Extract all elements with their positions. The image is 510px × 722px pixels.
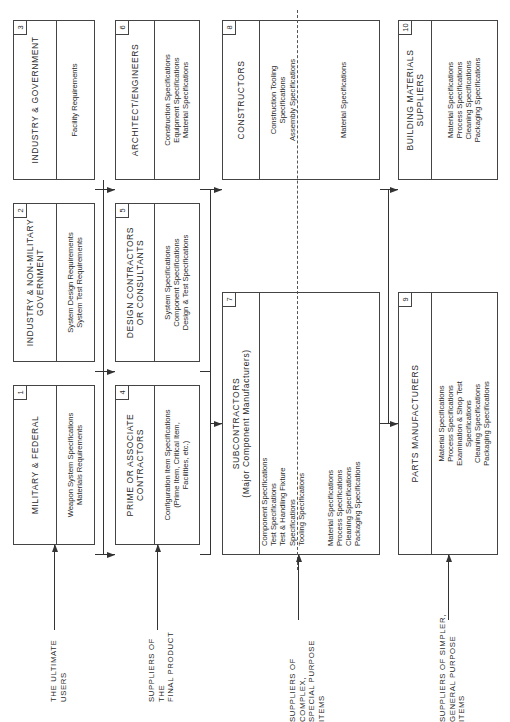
box-title: ARCHITECT/ENGINEERS xyxy=(116,21,155,179)
box-number: 8 xyxy=(223,21,236,35)
box-items: Weapon System Specifications Materials R… xyxy=(56,386,94,544)
leader-line xyxy=(298,555,299,620)
arrow-icon xyxy=(107,552,115,558)
box-design-contractors: DESIGN CONTRACTORS OR CONSULTANTS 5 Syst… xyxy=(115,203,200,362)
box-building-materials-suppliers: BUILDING MATERIALS SUPPLIERS 10 Material… xyxy=(398,20,498,180)
box-architect-engineers: ARCHITECT/ENGINEERS 6 Construction Speci… xyxy=(115,20,200,180)
arrow-icon xyxy=(296,554,302,562)
row-label-ultimate-users: THE ULTIMATE USERS xyxy=(49,622,68,702)
box-number: 5 xyxy=(116,204,129,218)
box-industry-nonmilitary-government: INDUSTRY & NON-MILITARY GOVERNMENT 2 Sys… xyxy=(13,203,95,362)
box-items: Material Specifications Process Specific… xyxy=(431,21,497,179)
box-items-upper: Construction Tooling Specifications Asse… xyxy=(259,21,307,179)
box-number: 7 xyxy=(223,293,236,307)
box-title: PARTS MANUFACTURERS xyxy=(399,293,432,554)
box-title: MILITARY & FEDERAL xyxy=(14,386,57,544)
connector xyxy=(388,189,389,424)
box-title: DESIGN CONTRACTORS OR CONSULTANTS xyxy=(116,204,155,361)
box-number: 10 xyxy=(399,21,412,35)
box-number: 9 xyxy=(399,293,412,307)
box-items: Construction Specifications Equipment Sp… xyxy=(154,21,199,179)
row-label-final-product: SUPPLIERS OF THE FINAL PRODUCT xyxy=(147,622,176,702)
connector xyxy=(210,190,211,555)
arrow-icon xyxy=(155,544,161,552)
arrow-icon xyxy=(214,421,222,427)
leader-line xyxy=(157,545,158,630)
box-military-federal: MILITARY & FEDERAL 1 Weapon System Speci… xyxy=(13,385,95,545)
box-items: Facility Requirements xyxy=(56,21,94,179)
box-items-lower: Material Specifications xyxy=(309,21,379,179)
box-items: Configuration Item Specifications (Prime… xyxy=(154,386,199,544)
box-items-lower: Material Specifications Process Specific… xyxy=(309,293,379,554)
box-subcontractors: SUBCONTRACTORS (Major Component Manufact… xyxy=(222,292,380,555)
arrow-icon xyxy=(214,187,222,193)
arrow-icon xyxy=(390,421,398,427)
box-parts-manufacturers: PARTS MANUFACTURERS 9 Material Specifica… xyxy=(398,292,498,555)
box-number: 4 xyxy=(116,386,129,400)
box-constructors: CONSTRUCTORS 8 Construction Tooling Spec… xyxy=(222,20,380,180)
box-title: BUILDING MATERIALS SUPPLIERS xyxy=(399,21,432,179)
connector xyxy=(200,554,211,555)
row-label-simpler-items: SUPPLIERS OF SIMPLER, GENERAL PURPOSE IT… xyxy=(438,612,467,722)
box-industry-government: INDUSTRY & GOVERNMENT 3 Facility Require… xyxy=(13,20,95,180)
leader-line xyxy=(54,545,55,630)
arrow-icon xyxy=(107,369,115,375)
arrow-icon xyxy=(107,187,115,193)
box-title: PRIME OR ASSOCIATE CONTRACTORS xyxy=(116,386,155,544)
row-label-complex-items: SUPPLIERS OF COMPLEX, SPECIAL PURPOSE IT… xyxy=(288,612,327,722)
box-title: CONSTRUCTORS xyxy=(223,21,260,179)
arrow-icon xyxy=(52,544,58,552)
box-prime-associate-contractors: PRIME OR ASSOCIATE CONTRACTORS 4 Configu… xyxy=(115,385,200,545)
connector xyxy=(200,371,211,372)
box-items: System Specifications Component Specific… xyxy=(154,204,199,361)
box-number: 6 xyxy=(116,21,129,35)
leader-line xyxy=(448,555,449,620)
box-title: INDUSTRY & GOVERNMENT xyxy=(14,21,57,179)
box-number: 3 xyxy=(14,21,27,35)
box-items-upper: Component Specifications Test Specificat… xyxy=(259,293,307,554)
arrow-icon xyxy=(390,187,398,193)
dashed-divider xyxy=(297,10,298,570)
box-title: INDUSTRY & NON-MILITARY GOVERNMENT xyxy=(14,204,57,361)
box-items: System Design Requirements System Test R… xyxy=(56,204,94,361)
connector xyxy=(103,180,104,555)
box-number: 2 xyxy=(14,204,27,218)
box-number: 1 xyxy=(14,386,27,400)
arrow-icon xyxy=(446,554,452,562)
box-title: SUBCONTRACTORS (Major Component Manufact… xyxy=(223,293,260,554)
box-items: Material Specifications Process Specific… xyxy=(431,293,497,554)
